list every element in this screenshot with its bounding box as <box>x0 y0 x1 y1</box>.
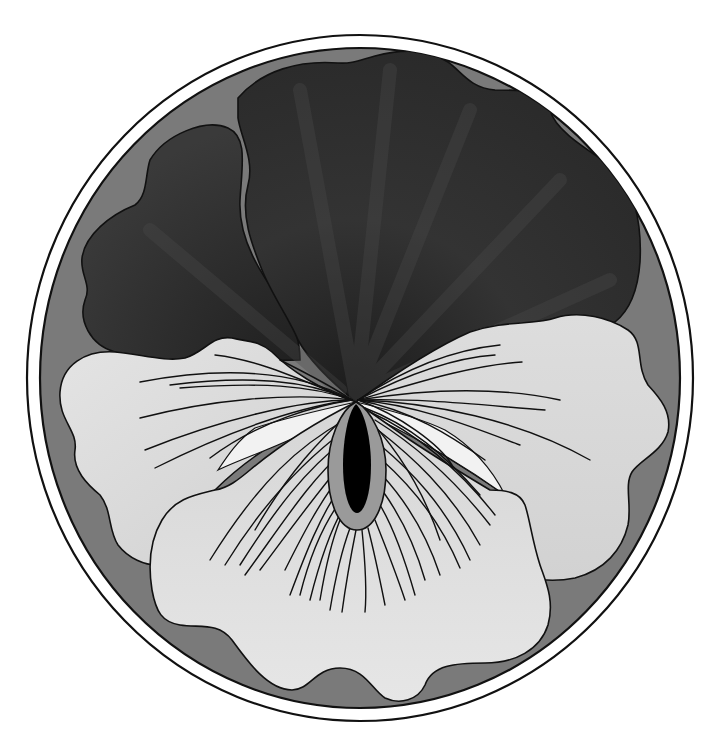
pansy-illustration <box>0 0 717 745</box>
